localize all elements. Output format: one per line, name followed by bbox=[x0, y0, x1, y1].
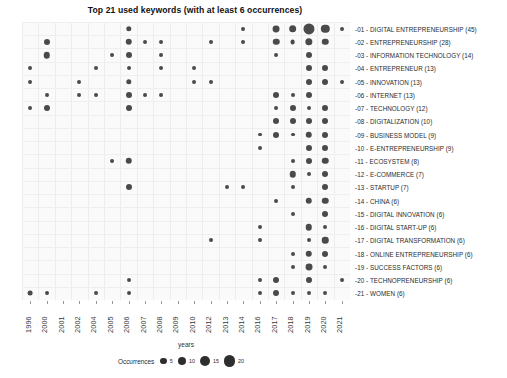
data-point[interactable] bbox=[291, 252, 295, 256]
data-point[interactable] bbox=[340, 27, 344, 31]
data-point[interactable] bbox=[290, 39, 295, 44]
legend-item-02[interactable]: -02 - ENTREPRENEURSHIP (28) bbox=[355, 38, 451, 45]
data-point[interactable] bbox=[290, 105, 296, 111]
data-point[interactable] bbox=[307, 106, 311, 110]
data-point[interactable] bbox=[322, 39, 328, 45]
data-point[interactable] bbox=[159, 93, 163, 97]
legend-item-05[interactable]: -05 - INNOVATION (13) bbox=[355, 78, 422, 85]
data-point[interactable] bbox=[306, 145, 312, 151]
data-point[interactable] bbox=[289, 25, 297, 33]
data-point[interactable] bbox=[45, 93, 49, 97]
data-point[interactable] bbox=[306, 79, 312, 85]
legend-item-12[interactable]: -12 - E-COMMERCE (7) bbox=[355, 171, 424, 178]
data-point[interactable] bbox=[307, 238, 311, 242]
data-point[interactable] bbox=[241, 186, 245, 190]
data-point[interactable] bbox=[209, 80, 213, 84]
data-point[interactable] bbox=[192, 66, 196, 70]
data-point[interactable] bbox=[94, 291, 98, 295]
legend-item-15[interactable]: -15 - DIGITAL INNOVATION (6) bbox=[355, 210, 444, 217]
data-point[interactable] bbox=[77, 93, 81, 97]
data-point[interactable] bbox=[159, 53, 163, 57]
data-point[interactable] bbox=[258, 225, 262, 229]
data-point[interactable] bbox=[273, 132, 279, 138]
data-point[interactable] bbox=[126, 184, 132, 190]
data-point[interactable] bbox=[322, 118, 328, 124]
data-point[interactable] bbox=[322, 251, 328, 257]
data-point[interactable] bbox=[307, 291, 311, 295]
data-point[interactable] bbox=[303, 23, 314, 34]
data-point[interactable] bbox=[258, 291, 262, 295]
data-point[interactable] bbox=[274, 53, 278, 57]
data-point[interactable] bbox=[273, 277, 279, 283]
data-point[interactable] bbox=[291, 159, 295, 163]
legend-item-13[interactable]: -13 - STARTUP (7) bbox=[355, 184, 409, 191]
data-point[interactable] bbox=[94, 66, 98, 70]
data-point[interactable] bbox=[323, 225, 327, 229]
data-point[interactable] bbox=[274, 106, 278, 110]
data-point[interactable] bbox=[322, 211, 328, 217]
legend-item-19[interactable]: -19 - SUCCESS FACTORS (6) bbox=[355, 263, 442, 270]
data-point[interactable] bbox=[110, 159, 114, 163]
legend-item-11[interactable]: -11 - ECOSYSTEM (8) bbox=[355, 158, 419, 165]
data-point[interactable] bbox=[322, 105, 328, 111]
data-point[interactable] bbox=[28, 80, 32, 84]
legend-item-01[interactable]: -01 - DIGITAL ENTREPRENEURSHIP (45) bbox=[355, 25, 477, 32]
data-point[interactable] bbox=[306, 197, 312, 203]
data-point[interactable] bbox=[258, 146, 262, 150]
data-point[interactable] bbox=[143, 40, 147, 44]
data-point[interactable] bbox=[322, 65, 328, 71]
data-point[interactable] bbox=[322, 171, 328, 177]
data-point[interactable] bbox=[44, 39, 50, 45]
data-point[interactable] bbox=[291, 186, 295, 190]
legend-item-21[interactable]: -21 - WOMEN (6) bbox=[355, 290, 405, 297]
data-point[interactable] bbox=[126, 92, 132, 98]
data-point[interactable] bbox=[306, 158, 312, 164]
data-point[interactable] bbox=[159, 40, 163, 44]
data-point[interactable] bbox=[306, 118, 312, 124]
data-point[interactable] bbox=[306, 92, 312, 98]
legend-item-06[interactable]: -06 - INTERNET (13) bbox=[355, 91, 415, 98]
data-point[interactable] bbox=[143, 93, 147, 97]
data-point[interactable] bbox=[28, 66, 32, 70]
legend-item-17[interactable]: -17 - DIGITAL TRANSFORMATION (6) bbox=[355, 237, 465, 244]
data-point[interactable] bbox=[273, 290, 279, 296]
data-point[interactable] bbox=[126, 52, 132, 58]
data-point[interactable] bbox=[127, 291, 131, 295]
data-point[interactable] bbox=[306, 250, 312, 256]
data-point[interactable] bbox=[322, 184, 328, 190]
data-point[interactable] bbox=[241, 27, 245, 31]
data-point[interactable] bbox=[126, 26, 131, 31]
data-point[interactable] bbox=[306, 131, 312, 137]
data-point[interactable] bbox=[323, 291, 327, 295]
data-point[interactable] bbox=[340, 278, 344, 282]
data-point[interactable] bbox=[273, 39, 279, 45]
data-point[interactable] bbox=[225, 186, 229, 190]
data-point[interactable] bbox=[322, 158, 328, 164]
legend-item-04[interactable]: -04 - ENTREPRENEUR (13) bbox=[355, 65, 436, 72]
data-point[interactable] bbox=[273, 25, 280, 32]
data-point[interactable] bbox=[291, 212, 295, 216]
data-point[interactable] bbox=[126, 105, 132, 111]
data-point[interactable] bbox=[306, 263, 313, 270]
legend-item-18[interactable]: -18 - ONLINE ENTREPRENEURSHIP (6) bbox=[355, 250, 473, 257]
data-point[interactable] bbox=[274, 199, 278, 203]
legend-item-16[interactable]: -16 - DIGITAL START-UP (6) bbox=[355, 224, 436, 231]
data-point[interactable] bbox=[273, 118, 279, 124]
data-point[interactable] bbox=[258, 238, 262, 242]
data-point[interactable] bbox=[322, 79, 328, 85]
legend-item-10[interactable]: -10 - E-ENTREPRENEURSHIP (9) bbox=[355, 144, 454, 151]
legend-item-08[interactable]: -08 - DIGITALIZATION (10) bbox=[355, 118, 432, 125]
data-point[interactable] bbox=[127, 66, 131, 70]
data-point[interactable] bbox=[125, 158, 131, 164]
data-point[interactable] bbox=[305, 38, 312, 45]
data-point[interactable] bbox=[289, 171, 295, 177]
data-point[interactable] bbox=[110, 53, 114, 57]
data-point[interactable] bbox=[322, 132, 328, 138]
data-point[interactable] bbox=[290, 118, 296, 124]
data-point[interactable] bbox=[306, 224, 312, 230]
data-point[interactable] bbox=[241, 40, 245, 44]
data-point[interactable] bbox=[192, 80, 196, 84]
data-point[interactable] bbox=[291, 133, 295, 137]
data-point[interactable] bbox=[28, 106, 32, 110]
data-point[interactable] bbox=[306, 65, 312, 71]
